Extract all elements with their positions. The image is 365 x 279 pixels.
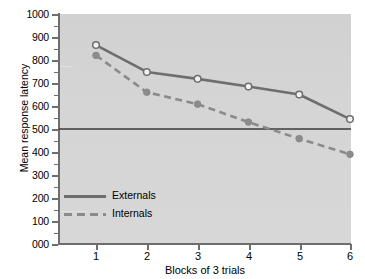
series-internals-line xyxy=(96,55,350,154)
data-point xyxy=(245,83,252,90)
data-point xyxy=(144,89,151,96)
legend-label: Internals xyxy=(112,207,152,219)
data-point xyxy=(245,119,252,126)
legend-swatch-solid-line-icon xyxy=(64,195,106,198)
data-point xyxy=(93,52,100,59)
data-point xyxy=(347,116,354,123)
series-internals-markers xyxy=(93,52,354,158)
data-point xyxy=(194,76,201,83)
legend-swatch-dashed-line-icon xyxy=(64,213,106,216)
data-point xyxy=(144,69,151,76)
chart-series-layer xyxy=(0,0,365,279)
data-point xyxy=(347,151,354,158)
legend-label: Externals xyxy=(112,189,156,201)
data-point xyxy=(93,42,100,49)
data-point xyxy=(296,135,303,142)
data-point xyxy=(296,91,303,98)
chart-figure: 1000 900 800 700 600 500 400 300 200 100… xyxy=(0,0,365,279)
data-point xyxy=(194,101,201,108)
